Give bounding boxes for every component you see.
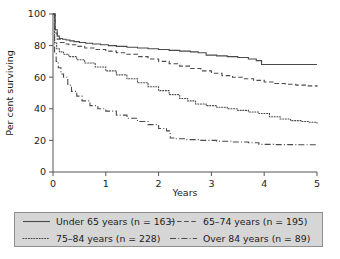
- curve-series-2: [53, 14, 317, 123]
- y-axis-ticks: 020406080100: [28, 8, 53, 177]
- legend-item-over-84: Over 84 years (n = 89): [167, 234, 322, 243]
- y-axis-title: Per cent surviving: [4, 50, 15, 135]
- y-tick-label: 40: [34, 103, 46, 114]
- axes: [53, 14, 317, 172]
- survival-chart-figure: 020406080100 012345 Years Per cent survi…: [0, 0, 340, 259]
- legend-label-over-84: Over 84 years (n = 89): [203, 234, 310, 243]
- legend-label-75-84: 75–84 years (n = 228): [56, 234, 160, 243]
- legend-item-75-84: 75–84 years (n = 228): [15, 234, 167, 243]
- x-tick-label: 5: [314, 178, 320, 189]
- plot-area: 020406080100 012345 Years Per cent survi…: [0, 0, 340, 212]
- y-tick-label: 0: [40, 166, 46, 177]
- y-tick-label: 80: [34, 40, 46, 51]
- x-tick-label: 0: [50, 178, 56, 189]
- x-tick-label: 3: [208, 178, 214, 189]
- legend-sample-solid-icon: [22, 217, 51, 226]
- legend-sample-dotted-icon: [22, 234, 51, 243]
- y-tick-label: 60: [34, 72, 46, 83]
- legend-label-under-65: Under 65 years (n = 163): [56, 217, 175, 226]
- x-axis-title: Years: [171, 187, 197, 198]
- curve-series-3: [53, 14, 317, 145]
- curve-series-1: [53, 14, 317, 87]
- chart-legend: Under 65 years (n = 163) 65–74 years (n …: [14, 212, 323, 247]
- y-tick-label: 100: [28, 8, 46, 19]
- legend-item-under-65: Under 65 years (n = 163): [15, 217, 167, 226]
- x-tick-label: 1: [103, 178, 109, 189]
- x-tick-label: 2: [156, 178, 162, 189]
- x-tick-label: 4: [261, 178, 267, 189]
- survival-curves: [53, 14, 317, 145]
- legend-sample-dashed-icon: [169, 217, 198, 226]
- legend-sample-dashdot-icon: [169, 234, 198, 243]
- y-tick-label: 20: [34, 135, 46, 146]
- legend-label-65-74: 65–74 years (n = 195): [203, 217, 307, 226]
- legend-item-65-74: 65–74 years (n = 195): [167, 217, 322, 226]
- curve-series-0: [53, 14, 317, 65]
